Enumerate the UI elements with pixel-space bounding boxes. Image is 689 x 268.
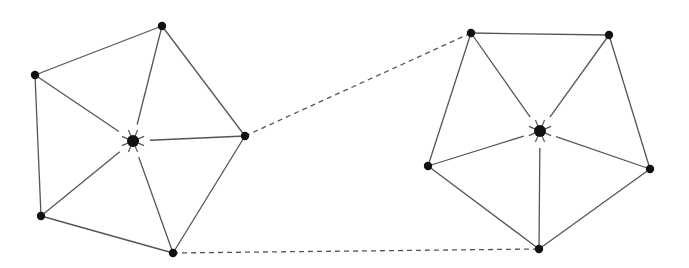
spoke-R0-R5 — [428, 136, 524, 166]
hub-tick — [128, 146, 131, 152]
edge-L3-L4 — [41, 216, 173, 253]
hub-tick — [529, 126, 535, 129]
spoke-L0-L4 — [41, 152, 120, 216]
node-L4 — [37, 212, 45, 220]
spoke-R0-R4 — [539, 148, 540, 249]
node-R4 — [535, 245, 543, 253]
edge-R3-R4 — [539, 169, 650, 249]
hub-node-R0 — [534, 125, 546, 137]
hub-tick — [535, 120, 538, 126]
edge-R2-R3 — [609, 35, 650, 169]
node-L3 — [169, 249, 177, 257]
edge-L5-L1 — [35, 26, 162, 75]
edge-R4-R5 — [428, 166, 539, 249]
hub-tick — [122, 136, 128, 139]
hub-tick — [545, 133, 551, 136]
nodes-layer — [31, 22, 654, 257]
node-R3 — [646, 165, 654, 173]
hub-tick — [542, 120, 545, 126]
edge-L4-L5 — [35, 75, 41, 216]
node-L5 — [31, 71, 39, 79]
node-L2 — [241, 132, 249, 140]
edge-L1-L2 — [162, 26, 245, 136]
spoke-L0-L2 — [150, 136, 245, 140]
node-L1 — [158, 22, 166, 30]
spoke-R0-R3 — [556, 137, 650, 169]
hub-tick — [529, 133, 535, 136]
edge-R5-R1 — [428, 33, 471, 166]
spoke-R0-R1 — [471, 33, 530, 117]
edge-L2-L3 — [173, 136, 245, 253]
hub-tick — [138, 143, 144, 146]
hub-node-L0 — [127, 135, 139, 147]
hub-tick — [128, 130, 131, 136]
spoke-L0-L1 — [137, 26, 162, 125]
hub-tick — [138, 136, 144, 139]
spoke-L0-L5 — [35, 75, 119, 132]
hub-tick — [135, 130, 138, 136]
network-diagram — [0, 0, 689, 268]
hub-tick — [542, 136, 545, 142]
hub-tick — [545, 126, 551, 129]
hub-tick — [135, 146, 138, 152]
spoke-L0-L3 — [139, 157, 173, 253]
edge-R1-R2 — [471, 33, 609, 35]
node-R2 — [605, 31, 613, 39]
hub-tick — [535, 136, 538, 142]
hub-tick — [122, 143, 128, 146]
node-R5 — [424, 162, 432, 170]
dashed-link-L2-R1 — [245, 33, 471, 136]
node-R1 — [467, 29, 475, 37]
spoke-R0-R2 — [550, 35, 609, 117]
dashed-link-L3-R4 — [173, 249, 539, 253]
